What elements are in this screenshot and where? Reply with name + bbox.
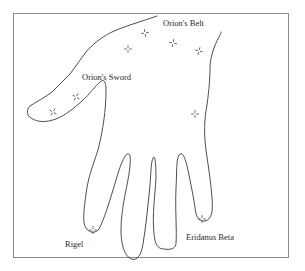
star-marker-belt-3	[124, 45, 132, 53]
star-marker-belt-2	[168, 38, 177, 47]
hand-outline-drawing	[0, 0, 305, 271]
label-rigel: Rigel	[65, 240, 83, 249]
star-marker-sword-2	[48, 107, 59, 118]
star-marker-rigel	[89, 226, 97, 234]
label-orions-sword: Orion's Sword	[82, 73, 131, 82]
star-markers	[48, 28, 206, 234]
star-marker-sword-1	[71, 92, 82, 103]
star-marker-eridanus	[198, 215, 206, 223]
label-eridanus-beta: Eridanus Beta	[186, 233, 234, 242]
star-marker-belt-1	[140, 28, 149, 37]
star-marker-side	[191, 110, 199, 118]
star-marker-belt-4	[194, 46, 204, 56]
label-orions-belt: Orion's Belt	[163, 19, 204, 28]
hand-outline	[27, 16, 221, 259]
diagram-canvas: Orion's Belt Orion's Sword Rigel Eridanu…	[0, 0, 305, 271]
